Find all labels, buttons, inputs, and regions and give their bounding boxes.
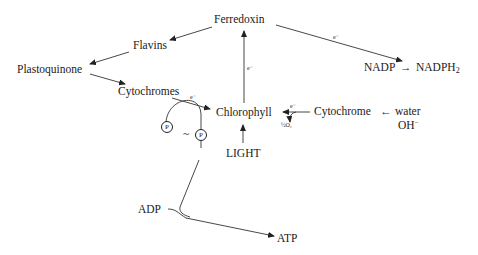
node-nadph2: NADPH2 [416,62,460,75]
arrow-nadp-to-nadph: → [400,62,412,74]
node-hydroxide: OH− [398,120,419,132]
node-ferredoxin: Ferredoxin [214,14,264,26]
arrow-adp-to-atp [168,209,274,236]
arrow-water-to-cytochrome: ← [380,106,392,118]
edge-label-e-cytochromes: e⁻ [190,94,196,100]
arrow-to-half-o2 [290,112,296,122]
node-atp: ATP [277,233,297,245]
node-chlorophyll: Chlorophyll [216,107,272,119]
edge-label-e-nadp: e⁻ [333,34,339,40]
node-nadp: NADP [364,62,395,74]
arrow-flavins-to-plastoquinone [90,52,129,64]
node-cytochromes: Cytochromes [118,86,179,98]
phosphate-circle-1: P [161,121,173,133]
node-half-o2: ½O₂ [281,122,292,128]
phosphate-to-adp-line [180,160,199,217]
node-light: LIGHT [226,148,261,160]
arrow-plastoquinone-to-cytochromes [90,74,125,84]
node-cytochrome: Cytochrome [314,106,371,118]
node-water: water [395,106,421,118]
high-energy-bond-tilde: ~ [183,129,189,141]
phosphate-circle-2: P [195,129,207,141]
edge-label-e-vertical: e⁻ [247,65,253,71]
node-adp: ADP [138,204,161,216]
arrow-ferredoxin-to-nadp [276,25,402,61]
arrow-ferredoxin-to-flavins [170,27,212,40]
node-plastoquinone: Plastoquinone [17,64,82,76]
node-flavins: Flavins [133,40,167,52]
edge-label-e-cytochrome: e⁻ [290,103,296,109]
